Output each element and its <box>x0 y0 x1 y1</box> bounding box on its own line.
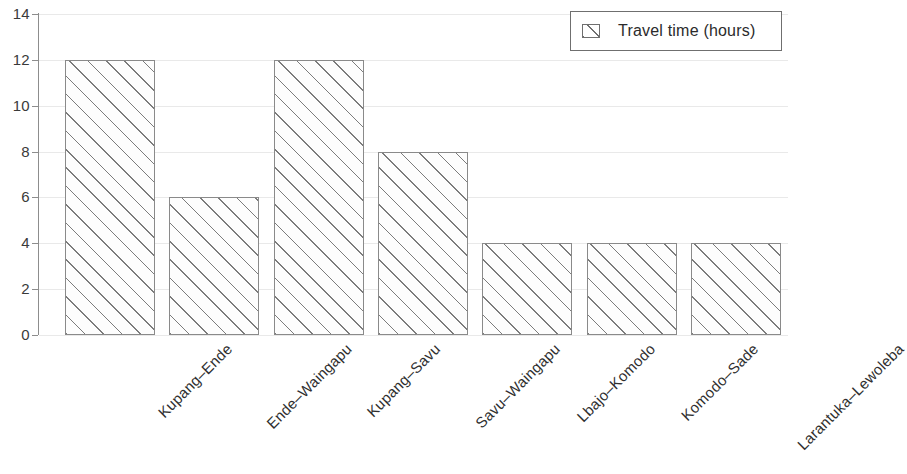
y-axis-tick <box>32 60 38 61</box>
bar <box>587 243 677 335</box>
bar <box>274 60 364 335</box>
y-axis-tick-label: 8 <box>4 144 30 159</box>
y-axis-tick <box>32 14 38 15</box>
y-axis-tick <box>32 152 38 153</box>
legend-label: Travel time (hours) <box>618 23 755 39</box>
hatched-square-icon <box>582 24 600 38</box>
x-axis-category-label: Kupang–Savu <box>363 340 443 420</box>
x-axis-category-label: Komodo–Sade <box>677 340 761 424</box>
bar <box>691 243 781 335</box>
x-axis-category-label: Savu–Waingapu <box>472 340 563 431</box>
x-axis-category-label: Lbajo–Komodo <box>574 340 659 425</box>
bar <box>482 243 572 335</box>
y-axis-tick <box>32 106 38 107</box>
x-axis-category-label: Kupang–Ende <box>154 340 235 421</box>
chart-legend: Travel time (hours) <box>570 11 782 51</box>
x-axis-category-label: Ende–Waingapu <box>263 340 355 432</box>
y-axis-tick-label: 4 <box>4 235 30 250</box>
x-axis-category-label: Larantuka–Lewoleba <box>794 340 907 453</box>
y-axis-tick-label: 12 <box>4 52 30 67</box>
x-axis-category-labels: Kupang–EndeEnde–WaingapuKupang–SavuSavu–… <box>0 336 796 474</box>
bar-series-travel-time <box>39 14 788 335</box>
bar <box>65 60 155 335</box>
y-axis-tick <box>32 243 38 244</box>
y-axis-tick <box>32 289 38 290</box>
y-axis-tick <box>32 197 38 198</box>
bar <box>378 152 468 335</box>
y-axis-tick-label: 6 <box>4 189 30 204</box>
y-axis-tick-label: 2 <box>4 281 30 296</box>
y-axis-tick-label: 14 <box>4 6 30 21</box>
bar <box>169 197 259 335</box>
y-axis-tick-label: 10 <box>4 98 30 113</box>
